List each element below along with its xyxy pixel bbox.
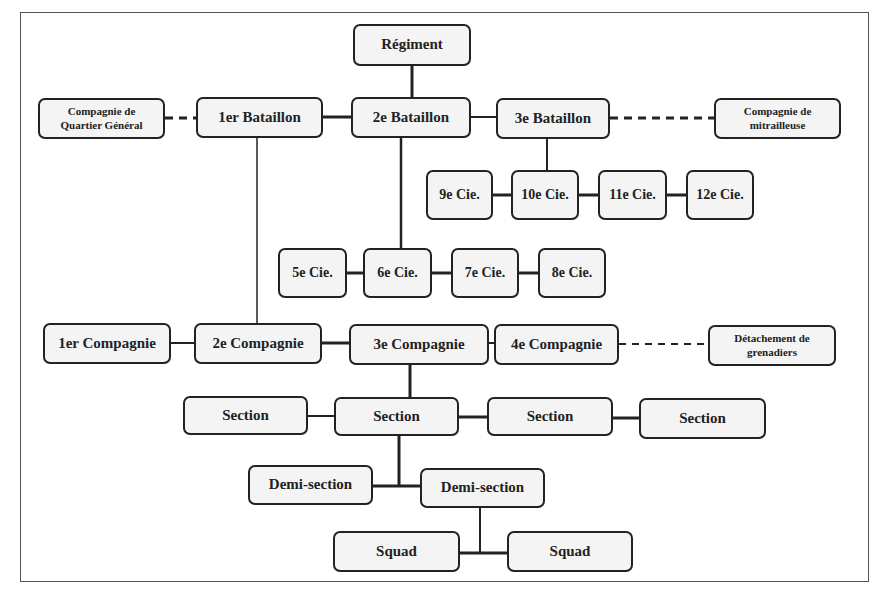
node-demi-section-2: Demi-section [420, 468, 545, 508]
node-cie-12: 12e Cie. [686, 170, 754, 220]
node-squad-2: Squad [507, 531, 633, 572]
node-label-line2: mitrailleuse [744, 119, 812, 133]
node-label: 2e Bataillon [373, 109, 449, 126]
node-label: Demi-section [269, 476, 352, 493]
node-label: 5e Cie. [292, 265, 332, 281]
node-label: 4e Compagnie [511, 336, 602, 353]
node-label: Section [373, 408, 420, 425]
node-section-2: Section [334, 397, 459, 436]
node-label: 10e Cie. [521, 187, 568, 203]
node-squad-1: Squad [333, 531, 460, 572]
node-bataillon-3: 3e Bataillon [496, 98, 610, 139]
node-bataillon-1: 1er Bataillon [196, 97, 323, 138]
node-label: Section [527, 408, 574, 425]
node-cie-9: 9e Cie. [426, 170, 493, 220]
node-section-4: Section [639, 398, 766, 439]
node-label-line1: Détachement de [734, 332, 809, 346]
node-regiment: Régiment [353, 24, 471, 66]
node-compagnie-2: 2e Compagnie [194, 323, 322, 364]
node-mg-company: Compagnie de mitrailleuse [714, 98, 841, 139]
node-label: 1er Compagnie [58, 335, 156, 352]
node-section-1: Section [183, 396, 308, 435]
node-label: 6e Cie. [377, 265, 417, 281]
node-label: 3e Bataillon [515, 110, 591, 127]
node-compagnie-4: 4e Compagnie [494, 324, 619, 365]
node-label-line1: Compagnie de [61, 105, 143, 119]
node-label: 9e Cie. [439, 187, 479, 203]
node-label-line1: Compagnie de [744, 105, 812, 119]
connector-lines [0, 0, 884, 604]
node-grenadiers: Détachement de grenadiers [708, 325, 836, 366]
node-label: Squad [550, 543, 591, 560]
node-compagnie-1: 1er Compagnie [43, 323, 171, 364]
node-label: 8e Cie. [552, 265, 592, 281]
node-label: Demi-section [441, 479, 524, 496]
node-label: 1er Bataillon [218, 109, 301, 126]
node-cie-6: 6e Cie. [363, 248, 432, 298]
node-label: Section [222, 407, 269, 424]
node-demi-section-1: Demi-section [248, 465, 373, 505]
node-qg-company: Compagnie de Quartier Général [38, 98, 165, 139]
node-cie-5: 5e Cie. [278, 248, 347, 298]
node-compagnie-3: 3e Compagnie [349, 324, 489, 365]
node-bataillon-2: 2e Bataillon [351, 97, 471, 138]
node-label: 12e Cie. [696, 187, 743, 203]
node-label-line2: grenadiers [734, 346, 809, 360]
node-label: Section [679, 410, 726, 427]
node-section-3: Section [487, 397, 613, 436]
node-label: 7e Cie. [465, 265, 505, 281]
node-label: 11e Cie. [609, 187, 656, 203]
node-label: 3e Compagnie [373, 336, 464, 353]
node-cie-11: 11e Cie. [598, 170, 667, 220]
node-label: Régiment [381, 36, 443, 53]
node-cie-7: 7e Cie. [451, 248, 519, 298]
node-label: 2e Compagnie [212, 335, 303, 352]
node-label-line2: Quartier Général [61, 119, 143, 133]
node-cie-8: 8e Cie. [538, 248, 606, 298]
node-label: Squad [376, 543, 417, 560]
node-cie-10: 10e Cie. [511, 170, 579, 220]
